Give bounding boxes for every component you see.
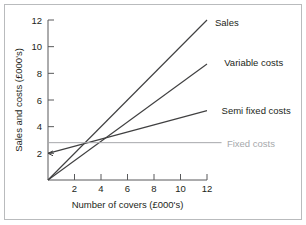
y-tick-label: 10	[31, 41, 42, 52]
x-tick-label: 2	[72, 183, 77, 194]
series-lines	[48, 20, 222, 180]
y-tick-label: 8	[37, 68, 42, 79]
x-tick-label: 10	[175, 183, 186, 194]
series-line-variable-costs	[48, 64, 207, 180]
y-tick-label: 4	[37, 121, 42, 132]
y-tick-label: 2	[37, 148, 42, 159]
x-tick-label: 8	[151, 183, 156, 194]
x-axis-title: Number of covers (£000's)	[72, 199, 184, 210]
series-label-fixed-costs: Fixed costs	[227, 138, 275, 149]
x-tick-label: 4	[98, 183, 103, 194]
series-label-semi-fixed-costs: Semi fixed costs	[222, 105, 291, 116]
series-line-sales	[48, 20, 207, 180]
x-tick-label: 12	[202, 183, 213, 194]
series-labels: SalesVariable costsSemi fixed costsFixed…	[215, 17, 291, 149]
series-line-semi-fixed-costs	[48, 111, 207, 154]
break-even-chart: 2468101224681012 SalesVariable costsSemi…	[0, 0, 306, 225]
y-tick-label: 12	[31, 15, 42, 26]
series-label-variable-costs: Variable costs	[224, 57, 283, 68]
x-tick-label: 6	[125, 183, 130, 194]
series-label-sales: Sales	[215, 17, 239, 28]
y-axis-title: Sales and costs (£000's)	[13, 48, 24, 152]
y-tick-label: 6	[37, 95, 42, 106]
chart-figure: 2468101224681012 SalesVariable costsSemi…	[0, 0, 306, 225]
